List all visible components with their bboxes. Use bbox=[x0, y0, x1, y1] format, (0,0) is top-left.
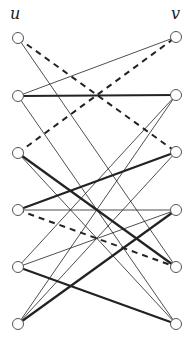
bipartite-graph bbox=[0, 0, 196, 348]
node-v5 bbox=[171, 319, 182, 330]
node-u4 bbox=[13, 262, 24, 273]
node-v4 bbox=[171, 262, 182, 273]
edge-u1-v0 bbox=[18, 37, 176, 96]
node-u5 bbox=[13, 319, 24, 330]
node-v2 bbox=[171, 147, 182, 158]
edge-u1-v1 bbox=[18, 95, 176, 96]
node-v0 bbox=[171, 32, 182, 43]
node-v3 bbox=[171, 205, 182, 216]
node-u3 bbox=[13, 205, 24, 216]
node-u0 bbox=[13, 33, 24, 44]
edge-u5-v3 bbox=[18, 210, 176, 324]
node-v1 bbox=[171, 90, 182, 101]
edge-u4-v1 bbox=[18, 95, 176, 267]
node-u1 bbox=[13, 91, 24, 102]
edge-u4-v5 bbox=[18, 267, 176, 324]
node-u2 bbox=[13, 148, 24, 159]
edge-u0-v4 bbox=[18, 38, 176, 267]
